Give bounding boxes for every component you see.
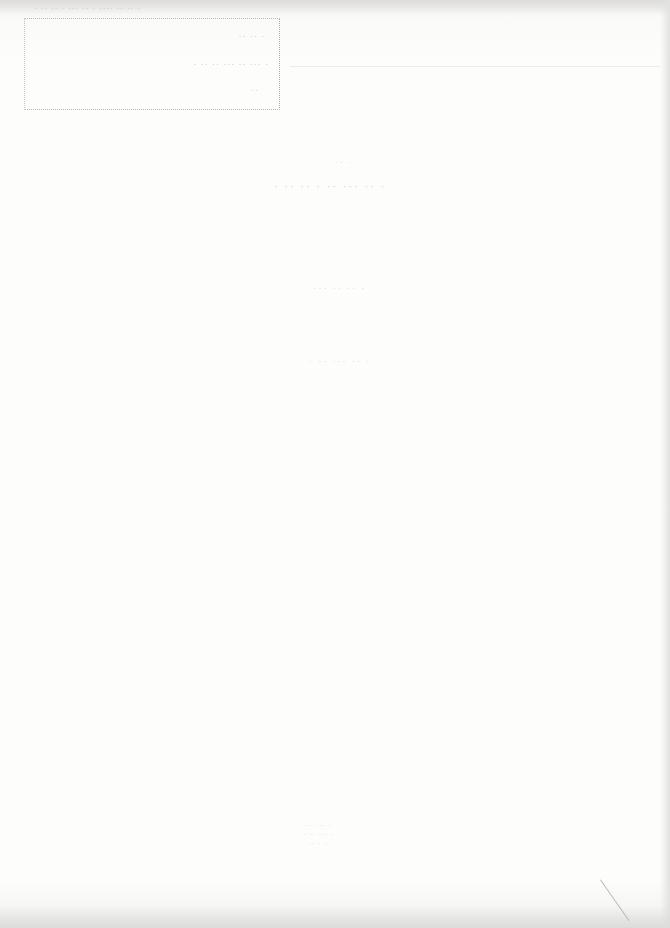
document-subtitle-2: · ·· ··· ·· · — [235, 356, 445, 366]
title-upper: · ·· · — [200, 158, 480, 167]
stamp-box: ·· ·· · · ·· ·· ··· ·· ··· · ·· — [24, 18, 280, 110]
document-title: · ·· ·· · ·· ··· ·· · — [150, 180, 510, 192]
header-strip-text: · ·· ·· · ··· ·· · ···· ·· ·· · — [34, 4, 141, 13]
stamp-line-2: · ·· ·· ··· ·· ··· · — [194, 59, 269, 69]
scan-rule — [290, 66, 660, 67]
document-subtitle: ··· ·· ·· · — [255, 283, 425, 293]
scan-edge-right — [660, 0, 670, 928]
stamp-line-3: ·· — [251, 85, 259, 95]
stamp-line-1: ·· ·· · — [239, 31, 266, 41]
seal-stamp: ··· ·· · · ·· ··· · ·· · ·· — [264, 822, 374, 856]
scan-edge-bottom — [0, 906, 670, 928]
scanned-page: · ·· ·· · ··· ·· · ···· ·· ·· · ·· ·· · … — [0, 0, 670, 928]
